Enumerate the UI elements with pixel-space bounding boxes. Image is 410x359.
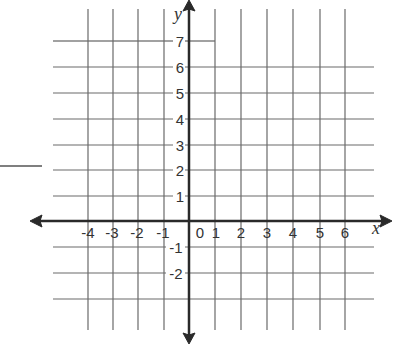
y-tick-label: 7 xyxy=(176,33,184,50)
x-tick-labels: -4 -3 -2 -1 0 1 2 3 4 5 6 xyxy=(81,224,349,241)
x-tick-label: -1 xyxy=(156,224,169,241)
y-tick-label: -2 xyxy=(169,265,182,282)
x-tick-label: 6 xyxy=(341,224,349,241)
y-tick-label: -1 xyxy=(169,239,182,256)
x-tick-label: -3 xyxy=(105,224,118,241)
y-axis-down-arrow-icon xyxy=(183,333,195,344)
y-tick-labels: 7 6 5 4 3 2 1 -1 -2 xyxy=(166,33,185,282)
x-tick-label: 5 xyxy=(316,224,324,241)
x-axis-right-arrow-icon xyxy=(380,215,392,227)
y-tick-label: 5 xyxy=(176,85,184,102)
y-axis-up-arrow-icon xyxy=(183,0,195,11)
x-tick-label: 1 xyxy=(212,224,220,241)
y-tick-label: 6 xyxy=(176,59,184,76)
x-tick-label: 0 xyxy=(196,224,204,241)
x-axis-left-arrow-icon xyxy=(30,215,42,227)
y-tick-label: 4 xyxy=(176,111,184,128)
y-tick-label: 1 xyxy=(176,188,184,205)
x-tick-label: -4 xyxy=(81,224,94,241)
x-axis-label: x xyxy=(371,218,380,238)
y-axis-label: y xyxy=(172,4,182,24)
x-tick-label: 2 xyxy=(237,224,245,241)
x-tick-label: 4 xyxy=(289,224,297,241)
x-tick-label: -2 xyxy=(130,224,143,241)
coordinate-plane: -4 -3 -2 -1 0 1 2 3 4 5 6 x 7 6 5 4 3 2 … xyxy=(0,0,410,359)
x-tick-label: 3 xyxy=(263,224,271,241)
y-tick-label: 3 xyxy=(176,137,184,154)
horizontal-gridlines xyxy=(53,41,374,299)
y-tick-label: 2 xyxy=(176,162,184,179)
